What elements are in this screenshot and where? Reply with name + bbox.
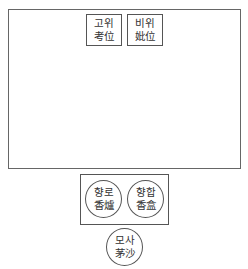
incense-box-hanja: 香盒 — [136, 199, 156, 212]
incense-burner-hanja: 香爐 — [94, 199, 114, 212]
tablet-father-hanja: 考位 — [94, 30, 114, 43]
tablet-mother-hanja: 妣位 — [135, 30, 155, 43]
shrine-hall-frame — [8, 9, 241, 169]
incense-burner-hangul: 향로 — [94, 186, 114, 199]
incense-box: 향합 香盒 — [127, 180, 164, 218]
tablet-father: 고위 考位 — [86, 14, 122, 46]
tablet-mother-hangul: 비위 — [135, 17, 155, 30]
tablet-mother: 비위 妣位 — [127, 14, 163, 46]
incense-box-hangul: 향합 — [136, 186, 156, 199]
moss-sand-hanja: 茅沙 — [115, 247, 135, 260]
incense-burner: 향로 香爐 — [85, 180, 122, 218]
tablet-father-hangul: 고위 — [94, 17, 114, 30]
moss-sand-hangul: 모사 — [115, 234, 135, 247]
moss-sand-bowl: 모사 茅沙 — [106, 228, 143, 266]
